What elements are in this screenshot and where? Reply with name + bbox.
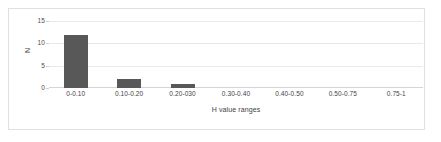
y-tick-label-0: 0 — [23, 85, 45, 92]
y-tick-label-5: 5 — [23, 63, 45, 70]
bar-slot-2 — [156, 21, 209, 88]
x-tick-label-5: 0.50-0.75 — [316, 91, 369, 98]
bar-slot-0 — [49, 21, 102, 88]
x-tick-label-4: 0.40-0.50 — [263, 91, 316, 98]
bar-slot-6 — [370, 21, 423, 88]
bars-layer — [49, 21, 423, 88]
x-axis-title: H value ranges — [49, 106, 423, 113]
bar-0.10-0.20[interactable] — [117, 79, 141, 88]
bar-0.20-030[interactable] — [171, 84, 195, 88]
bar-0-0.10[interactable] — [64, 35, 88, 88]
bar-chart: 15 10 5 0 — [9, 9, 426, 131]
bar-slot-3 — [209, 21, 262, 88]
plot-area — [49, 21, 423, 88]
bar-slot-4 — [263, 21, 316, 88]
x-tick-label-3: 0.30-0.40 — [209, 91, 262, 98]
x-tick-label-2: 0.20-030 — [156, 91, 209, 98]
y-tick-label-15: 15 — [23, 18, 45, 25]
y-tick-mark-0 — [46, 88, 49, 89]
x-axis-tick-labels: 0-0.10 0.10-0.20 0.20-030 0.30-0.40 0.40… — [49, 91, 423, 103]
x-tick-label-0: 0-0.10 — [49, 91, 102, 98]
bar-slot-1 — [102, 21, 155, 88]
chart-figure-frame: 15 10 5 0 — [8, 8, 425, 130]
bar-slot-5 — [316, 21, 369, 88]
x-tick-label-6: 0.75-1 — [370, 91, 423, 98]
x-tick-label-1: 0.10-0.20 — [102, 91, 155, 98]
y-axis-title: N — [24, 44, 31, 58]
